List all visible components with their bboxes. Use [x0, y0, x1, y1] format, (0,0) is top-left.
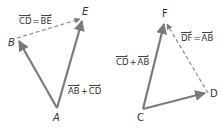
equals-sign: =	[31, 16, 40, 26]
vector-label-cd: CD	[116, 58, 128, 67]
vector-label-ab: AB	[68, 87, 80, 96]
equation-cd-plus-ab: CD+AB	[116, 58, 149, 67]
vector-label-cd: CD	[19, 17, 31, 26]
vector-label-df: DF	[181, 34, 192, 43]
plus-sign: +	[128, 57, 137, 67]
point-label-c: C	[137, 113, 144, 123]
point-label-f: F	[162, 9, 168, 19]
plus-sign: +	[80, 86, 89, 96]
point-label-d: D	[210, 89, 218, 99]
point-label-b: B	[8, 38, 15, 48]
vector-label-ab: AB	[202, 34, 214, 43]
point-label-a: A	[53, 113, 60, 123]
equals-sign: =	[192, 33, 201, 43]
equation-cd-equals-be: CD=BE	[19, 17, 52, 26]
vector-label-cd: CD	[89, 87, 101, 96]
vector-label-be: BE	[41, 17, 52, 26]
point-label-e: E	[82, 7, 88, 17]
equation-df-equals-ab: DF=AB	[181, 34, 213, 43]
vector-label-ab: AB	[138, 58, 150, 67]
equation-ab-plus-cd: AB+CD	[68, 87, 101, 96]
vector-ab	[19, 41, 57, 108]
vector-cd	[143, 93, 205, 109]
